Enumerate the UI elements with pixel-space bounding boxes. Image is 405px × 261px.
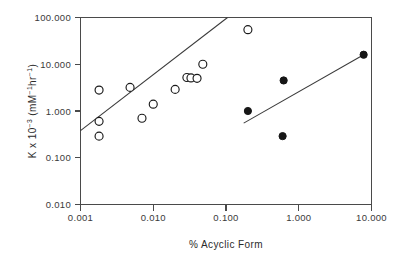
data-point-open — [199, 60, 207, 68]
y-tick-label-0: 100.000 — [35, 12, 71, 23]
y-tick-label-1: 10.000 — [40, 59, 71, 70]
y-title-close: ) — [27, 64, 38, 68]
lower-regression-line — [244, 55, 364, 123]
y-title-exp1: −3 — [26, 119, 33, 128]
x-axis-tick-labels: 0.001 0.010 0.100 1.000 10.000 — [68, 212, 387, 223]
x-axis-ticks — [81, 205, 372, 211]
data-point-open — [138, 114, 146, 122]
data-point-open — [171, 85, 179, 93]
data-point-filled — [279, 133, 286, 140]
x-tick-label-0: 0.001 — [68, 212, 93, 223]
y-axis-title: K x 10−3 (mM−1hr−1) — [26, 64, 38, 158]
y-title-exp2: −1 — [26, 86, 33, 95]
y-title-open: (mM — [27, 94, 38, 118]
data-point-open — [95, 86, 103, 94]
data-point-filled — [360, 51, 367, 58]
data-point-open — [193, 74, 201, 82]
data-point-open — [95, 132, 103, 140]
x-tick-label-2: 0.100 — [213, 212, 238, 223]
scatter-plot: 100.000 10.000 1.000 0.100 0.010 0.001 0… — [0, 0, 405, 261]
x-tick-label-4: 10.000 — [356, 212, 387, 223]
x-axis-title: % Acyclic Form — [189, 239, 263, 250]
data-point-filled — [280, 77, 287, 84]
y-axis-ticks — [75, 18, 81, 205]
data-point-open — [95, 117, 103, 125]
regression-lines — [81, 18, 364, 131]
y-title-exp3: −1 — [26, 68, 33, 77]
y-title-hr: hr — [27, 76, 38, 86]
y-title-k: K x 10 — [27, 127, 38, 158]
data-point-open — [244, 26, 252, 34]
y-tick-label-4: 0.010 — [46, 199, 71, 210]
data-points — [95, 26, 367, 140]
data-point-open — [149, 100, 157, 108]
data-point-filled — [244, 107, 251, 114]
x-tick-label-3: 1.000 — [286, 212, 311, 223]
upper-regression-line — [81, 18, 228, 131]
data-point-open — [126, 83, 134, 91]
svg-text:K x 10−3 (mM−1hr−1): K x 10−3 (mM−1hr−1) — [26, 64, 38, 158]
y-axis-tick-labels: 100.000 10.000 1.000 0.100 0.010 — [35, 12, 71, 210]
plot-frame — [81, 18, 372, 205]
x-tick-label-1: 0.010 — [141, 212, 166, 223]
y-tick-label-2: 1.000 — [46, 106, 71, 117]
y-tick-label-3: 0.100 — [46, 152, 71, 163]
chart-container: 100.000 10.000 1.000 0.100 0.010 0.001 0… — [0, 0, 405, 261]
